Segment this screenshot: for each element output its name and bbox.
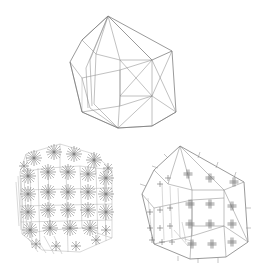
panel-vector-glyphs [8, 138, 126, 260]
wireframe-silhouette [70, 62, 176, 128]
panel-wireframe [60, 8, 180, 130]
wireframe-right-face [152, 51, 176, 126]
cross-mesh-top-edges [142, 146, 244, 208]
wireframe-front-face [118, 60, 152, 128]
cross-glyph-row-4 [149, 237, 237, 249]
panel-cross-glyphs [138, 138, 256, 260]
wireframe-mesh-svg [60, 8, 180, 130]
cross-glyph-mesh-svg [138, 138, 256, 260]
vector-glyph-mesh-svg [8, 138, 126, 260]
wireframe-left-face [70, 40, 152, 128]
vector-glyph-row-3 [20, 184, 114, 202]
vector-glyph-row-2 [20, 164, 114, 186]
figure-root [0, 0, 257, 265]
vector-glyph-row-bottom [31, 235, 101, 251]
